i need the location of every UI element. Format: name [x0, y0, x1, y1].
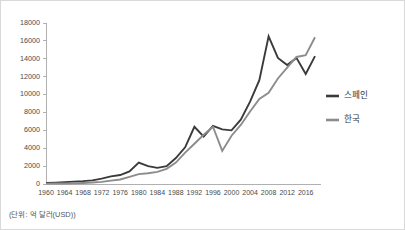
x-tick-label: 2000: [224, 189, 240, 196]
legend-label: 한국: [344, 114, 360, 124]
x-tick-label: 1984: [150, 189, 166, 196]
x-tick-label: 1968: [75, 189, 91, 196]
series-group: [46, 36, 315, 183]
x-tick-label: 1992: [187, 189, 203, 196]
x-tick-label: 1960: [38, 189, 54, 196]
x-tick-label: 1996: [205, 189, 221, 196]
unit-footnote: (단위: 억 달러(USD)): [9, 210, 76, 219]
x-tick-label: 1976: [112, 189, 128, 196]
x-tick-label: 2004: [242, 189, 258, 196]
chart-figure: 0200040006000800010000120001400016000180…: [0, 0, 405, 230]
x-tick-label: 2016: [298, 189, 314, 196]
x-tick-label: 2012: [279, 189, 295, 196]
x-tick-label: 1988: [168, 189, 184, 196]
y-tick-label: 2000: [24, 161, 40, 170]
x-tick-label: 1972: [94, 189, 110, 196]
y-tick-label: 8000: [24, 107, 40, 116]
series-line: [46, 36, 315, 183]
x-tick-label: 2008: [261, 189, 277, 196]
legend-label: 스페인: [344, 90, 368, 100]
x-axis-tick-group: 1960196419681972197619801984198819921996…: [38, 189, 313, 196]
chart-legend: 스페인한국: [326, 90, 368, 124]
y-tick-label: 12000: [20, 72, 40, 81]
y-tick-label: 4000: [24, 143, 40, 152]
line-chart: 0200040006000800010000120001400016000180…: [1, 1, 405, 230]
y-tick-label: 0: [36, 179, 40, 188]
y-axis-tick-group: 0200040006000800010000120001400016000180…: [20, 18, 46, 188]
y-tick-label: 16000: [20, 36, 40, 45]
series-line: [46, 37, 315, 183]
y-tick-label: 18000: [20, 18, 40, 27]
y-tick-label: 10000: [20, 89, 40, 98]
y-tick-label: 14000: [20, 54, 40, 63]
x-tick-label: 1964: [57, 189, 73, 196]
x-tick-label: 1980: [131, 189, 147, 196]
y-tick-label: 6000: [24, 125, 40, 134]
